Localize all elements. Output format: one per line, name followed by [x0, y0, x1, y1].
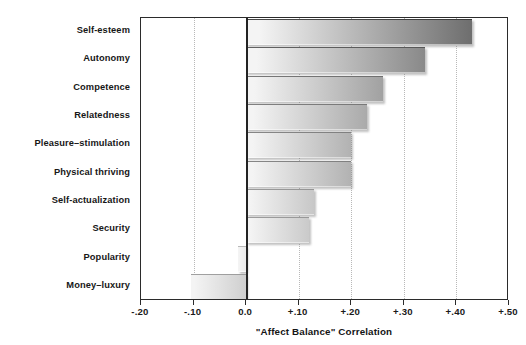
zero-reference-line [246, 18, 248, 299]
bar-popularity [238, 246, 246, 272]
x-tick-mark [455, 300, 456, 305]
bar-competence [246, 76, 383, 102]
category-label-popularity: Popularity [0, 253, 130, 262]
category-label-self-actualization: Self-actualization [0, 196, 130, 205]
plot-area [140, 17, 508, 300]
bar-self-actualization [246, 189, 314, 215]
x-tick-label-50: +.50 [498, 306, 518, 317]
bar-row [141, 189, 507, 215]
x-tick-label-20: +.20 [340, 306, 360, 317]
x-tick-mark [403, 300, 404, 305]
x-tick-label-10-neg: -.10 [184, 306, 201, 317]
category-label-money-luxury: Money–luxury [0, 281, 130, 290]
x-tick-mark [193, 300, 194, 305]
x-tick-mark [298, 300, 299, 305]
bar-row [141, 76, 507, 102]
bar-autonomy [246, 47, 425, 73]
x-tick-mark [508, 300, 509, 305]
category-label-physical-thriving: Physical thriving [0, 168, 130, 177]
bar-self-esteem [246, 19, 472, 45]
x-tick-label-20-neg: -.20 [131, 306, 148, 317]
bar-row [141, 132, 507, 158]
x-axis-title: "Affect Balance" Correlation [140, 326, 508, 337]
x-axis: -.20-.100.0+.10+.20+.30+.40+.50 [140, 300, 508, 320]
category-label-autonomy: Autonomy [0, 54, 130, 63]
bar-security [246, 217, 309, 243]
x-tick-label-00: 0.0 [238, 306, 252, 317]
category-label-competence: Competence [0, 83, 130, 92]
x-tick-mark [245, 300, 246, 305]
category-label-self-esteem: Self-esteem [0, 26, 130, 35]
x-tick-label-40: +.40 [446, 306, 466, 317]
x-tick-mark [350, 300, 351, 305]
bar-money-luxury [191, 274, 246, 299]
bar-physical-thriving [246, 161, 351, 187]
bar-row [141, 246, 507, 272]
category-label-security: Security [0, 224, 130, 233]
bar-row [141, 274, 507, 299]
bar-row [141, 47, 507, 73]
bar-row [141, 19, 507, 45]
category-axis-labels: Self-esteemAutonomyCompetenceRelatedness… [0, 17, 130, 300]
bar-row [141, 217, 507, 243]
x-tick-label-10: +.10 [288, 306, 308, 317]
x-tick-mark [140, 300, 141, 305]
bar-relatedness [246, 104, 367, 130]
category-label-relatedness: Relatedness [0, 111, 130, 120]
bar-row [141, 161, 507, 187]
bar-pleasure-stimulation [246, 132, 351, 158]
plot-inner [141, 18, 507, 299]
bar-row [141, 104, 507, 130]
category-label-pleasure-stimulation: Pleasure–stimulation [0, 139, 130, 148]
x-tick-label-30: +.30 [393, 306, 413, 317]
chart-figure: Self-esteemAutonomyCompetenceRelatedness… [0, 0, 526, 345]
